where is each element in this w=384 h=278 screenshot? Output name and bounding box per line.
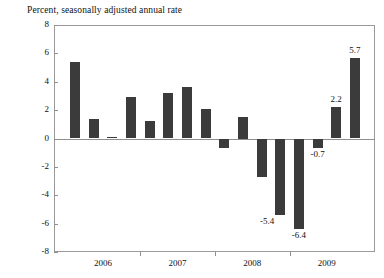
y-axis-tick <box>54 252 58 253</box>
plot-area <box>54 25 375 252</box>
bar <box>257 139 267 177</box>
y-axis-tick-label: 6 <box>0 47 49 57</box>
zero-line <box>54 139 375 140</box>
bar <box>350 58 360 139</box>
y-axis-tick-label: -2 <box>0 161 49 171</box>
y-axis-tick <box>54 82 58 83</box>
bar <box>219 139 229 149</box>
y-axis-tick-label: -6 <box>0 218 49 228</box>
bar-value-label: 5.7 <box>349 45 360 55</box>
bar <box>163 93 173 138</box>
bar <box>294 139 304 230</box>
y-axis-tick <box>54 53 58 54</box>
y-axis-tick-label: -4 <box>0 189 49 199</box>
y-axis-tick-label: 4 <box>0 76 49 86</box>
bar-value-label: -5.4 <box>260 216 274 226</box>
x-axis-tick <box>215 252 216 256</box>
y-axis-tick-label: -8 <box>0 246 49 256</box>
bar <box>275 139 285 216</box>
x-axis-tick-label: 2006 <box>94 258 112 268</box>
y-axis-tick <box>54 110 58 111</box>
y-axis-tick-label: 2 <box>0 104 49 114</box>
bar <box>238 117 248 138</box>
x-axis-tick-label: 2009 <box>318 258 336 268</box>
bar <box>107 137 117 138</box>
bar <box>89 119 99 139</box>
x-axis-tick-label: 2007 <box>169 258 187 268</box>
y-axis-tick <box>54 25 58 26</box>
bar-value-label: 2.2 <box>331 94 342 104</box>
bar-value-label: -0.7 <box>310 149 324 159</box>
bar <box>313 139 323 149</box>
y-axis-tick <box>54 139 58 140</box>
bar <box>126 97 136 138</box>
x-axis-tick-label: 2008 <box>243 258 261 268</box>
bar <box>331 107 341 138</box>
bar-value-label: -6.4 <box>292 230 306 240</box>
x-axis-tick <box>290 252 291 256</box>
bar <box>201 109 211 139</box>
y-axis-tick <box>54 167 58 168</box>
y-axis-tick-label: 8 <box>0 19 49 29</box>
bar <box>70 62 80 139</box>
bar-chart: Percent, seasonally adjusted annual rate… <box>0 0 384 278</box>
y-axis-tick <box>54 195 58 196</box>
bar <box>145 121 155 138</box>
bar <box>182 87 192 138</box>
chart-title: Percent, seasonally adjusted annual rate <box>27 5 182 15</box>
y-axis-tick-label: 0 <box>0 133 49 143</box>
y-axis-tick <box>54 224 58 225</box>
x-axis-tick <box>140 252 141 256</box>
